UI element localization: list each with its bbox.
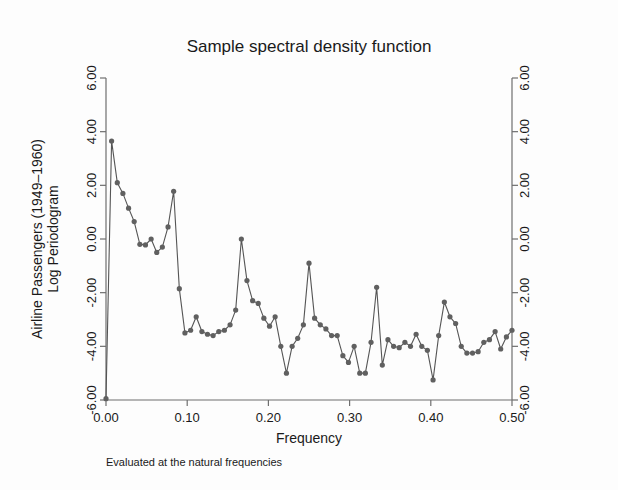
series-point [182, 330, 187, 335]
series-point [476, 349, 481, 354]
series-point [278, 344, 283, 349]
series-point [149, 236, 154, 241]
series-point [498, 346, 503, 351]
series-point [109, 138, 114, 143]
series-point [459, 344, 464, 349]
series-point [335, 333, 340, 338]
series-point [216, 329, 221, 334]
series-point [205, 332, 210, 337]
series-point [284, 371, 289, 376]
x-tick-label: 0.30 [337, 410, 362, 425]
chart-title: Sample spectral density function [187, 37, 432, 56]
series-point [188, 328, 193, 333]
series-point [346, 360, 351, 365]
series-point [256, 301, 261, 306]
series-point [261, 316, 266, 321]
series-point [318, 322, 323, 327]
series-point [233, 308, 238, 313]
series-point [160, 244, 165, 249]
series-point [442, 299, 447, 304]
series-point [374, 285, 379, 290]
series-point [137, 242, 142, 247]
series-point [357, 371, 362, 376]
y-tick-label-left: 4.00 [84, 119, 99, 144]
series-point [504, 334, 509, 339]
y-axis-ticks-left: -6.00-4.00-2.000.002.004.006.00 [84, 65, 106, 414]
series-point [453, 321, 458, 326]
series-point [222, 328, 227, 333]
series-point [267, 324, 272, 329]
series-point [509, 328, 514, 333]
y-axis-title-line2: Log Periodogram [45, 185, 61, 292]
series-point [295, 336, 300, 341]
series-point [211, 333, 216, 338]
series-point [397, 345, 402, 350]
series-point [199, 329, 204, 334]
spectral-density-chart: Sample spectral density function -6.00-4… [0, 0, 618, 490]
x-tick-label: 0.00 [93, 410, 118, 425]
series-point [408, 344, 413, 349]
y-tick-label-right: 6.00 [517, 65, 532, 90]
y-tick-label-left: 0.00 [84, 226, 99, 251]
y-tick-label-right: 2.00 [517, 173, 532, 198]
series-point [323, 326, 328, 331]
series-point [312, 316, 317, 321]
series-point [363, 371, 368, 376]
series-point [447, 314, 452, 319]
series-point [120, 191, 125, 196]
y-tick-label-left: 2.00 [84, 173, 99, 198]
series-point [352, 344, 357, 349]
series-point [194, 314, 199, 319]
series-point [340, 353, 345, 358]
series-point [239, 236, 244, 241]
series-point [470, 350, 475, 355]
series-point [464, 350, 469, 355]
series-point [171, 189, 176, 194]
y-tick-label-left: -2.00 [84, 278, 99, 308]
series-point [227, 322, 232, 327]
series-point [290, 344, 295, 349]
series-point [306, 261, 311, 266]
series-point [154, 250, 159, 255]
x-tick-label: 0.50 [499, 410, 524, 425]
y-tick-label-right: 0.00 [517, 226, 532, 251]
x-axis-title: Frequency [276, 430, 342, 446]
series-point [385, 337, 390, 342]
chart-note: Evaluated at the natural frequencies [106, 456, 283, 468]
y-tick-label-right: -4.00 [517, 332, 532, 362]
series-point [436, 333, 441, 338]
series-point [425, 348, 430, 353]
series-point [177, 286, 182, 291]
series-point [391, 344, 396, 349]
y-tick-label-left: 6.00 [84, 65, 99, 90]
series-point [115, 180, 120, 185]
series-point [165, 224, 170, 229]
series-point [301, 322, 306, 327]
x-tick-label: 0.20 [256, 410, 281, 425]
series-line [106, 141, 512, 399]
series-point [481, 340, 486, 345]
y-tick-label-right: 4.00 [517, 119, 532, 144]
y-tick-label-left: -4.00 [84, 332, 99, 362]
series-point [419, 344, 424, 349]
series-point [244, 278, 249, 283]
series-point [329, 333, 334, 338]
series-point [402, 340, 407, 345]
x-axis-ticks: 0.000.100.200.300.400.50 [93, 400, 524, 425]
chart-figure: Sample spectral density function -6.00-4… [0, 0, 618, 490]
series-point [126, 206, 131, 211]
series-point [143, 242, 148, 247]
y-axis-title-line1: Airline Passengers (1949–1960) [29, 139, 45, 339]
series-point [487, 337, 492, 342]
series-point [414, 332, 419, 337]
x-tick-label: 0.10 [175, 410, 200, 425]
series-point [380, 363, 385, 368]
series-point [132, 219, 137, 224]
y-axis-ticks-right: -6.00-4.00-2.000.002.004.006.00 [512, 65, 532, 414]
series-point [103, 396, 108, 401]
x-tick-label: 0.40 [418, 410, 443, 425]
series-point [368, 340, 373, 345]
series-point [273, 314, 278, 319]
series-point [493, 329, 498, 334]
series-point [250, 298, 255, 303]
